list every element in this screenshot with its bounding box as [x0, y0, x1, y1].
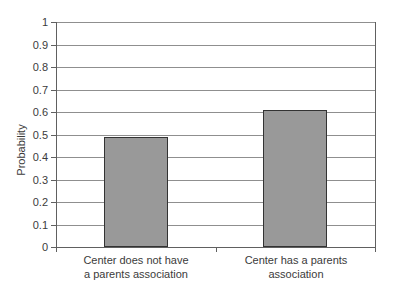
y-tick-label: 0.3	[0, 173, 48, 187]
x-category-label-line: Center does not have	[56, 253, 216, 267]
bar	[263, 110, 327, 247]
gridline	[56, 90, 375, 91]
gridline	[56, 22, 375, 23]
y-tick-label: 0.7	[0, 83, 48, 97]
y-tick-label: 0.8	[0, 60, 48, 74]
y-axis-line	[56, 22, 57, 247]
plot-right-border	[375, 22, 376, 248]
x-tick-mark	[56, 248, 57, 252]
y-tick-label: 0.5	[0, 128, 48, 142]
y-tick-label: 0.1	[0, 218, 48, 232]
x-category-label-line: association	[216, 267, 376, 281]
bar-chart: Probability 10.90.80.70.60.50.40.30.20.1…	[0, 0, 393, 290]
gridline	[56, 112, 375, 113]
y-tick-label: 1	[0, 15, 48, 29]
x-tick-mark	[375, 248, 376, 252]
y-tick-label: 0.6	[0, 105, 48, 119]
x-tick-mark	[216, 248, 217, 252]
y-tick-label: 0	[0, 240, 48, 254]
gridline	[56, 135, 375, 136]
y-tick-label: 0.4	[0, 150, 48, 164]
bar	[104, 137, 168, 247]
x-category-label-line: Center has a parents	[216, 253, 376, 267]
x-category-label: Center does not havea parents associatio…	[56, 253, 216, 281]
x-category-label-line: a parents association	[56, 267, 216, 281]
gridline	[56, 67, 375, 68]
gridline	[56, 45, 375, 46]
x-category-label: Center has a parentsassociation	[216, 253, 376, 281]
y-tick-label: 0.2	[0, 195, 48, 209]
y-tick-label: 0.9	[0, 38, 48, 52]
